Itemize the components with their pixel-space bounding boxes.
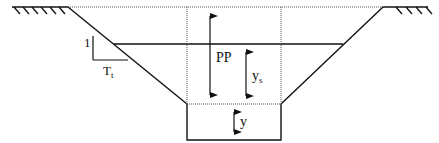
left-ground-hatch: [12, 7, 68, 14]
ys-label: ys: [252, 68, 263, 85]
slope-horizontal-label: Tt: [103, 63, 114, 80]
pp-label: PP: [216, 50, 232, 65]
right-ground-hatch: [383, 7, 432, 14]
left-slope: [68, 7, 187, 104]
y-label: y: [240, 114, 247, 129]
right-slope: [281, 7, 383, 104]
slope-vertical-label: 1: [84, 35, 91, 50]
channel-diagram: 1 Tt PP ys y: [0, 0, 439, 143]
slope-indicator: [93, 36, 128, 60]
